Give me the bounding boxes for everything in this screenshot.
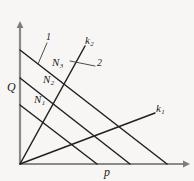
callout-label-2: 2 [97,58,102,68]
y-axis-label: Q [7,81,16,93]
curve-label-n3: N3 [52,57,63,68]
curve-label-n1-base: N [34,93,41,105]
curve-label-k2: k2 [85,35,93,46]
curve-label-n3-subscript: 3 [60,62,63,69]
callout-label-1: 1 [46,32,51,42]
n-lines-group [20,50,167,164]
figure-container: Q p N1 N2 N3 k1 k2 1 2 [0,0,194,181]
curve-label-n1: N1 [34,94,45,105]
curve-label-k1: k1 [156,103,164,114]
k-rays-group [20,46,155,164]
callout-1-leader [38,43,47,64]
curve-label-n2-base: N [43,73,50,85]
y-axis-arrowhead [17,21,24,28]
curve-n1 [20,105,97,164]
curve-n3 [20,50,167,164]
curve-n2 [20,78,130,164]
curve-label-k2-subscript: 2 [90,40,93,47]
curve-label-n2-subscript: 2 [51,79,54,86]
curve-label-n3-base: N [52,56,59,68]
diagram-canvas [0,0,194,181]
curve-label-k1-subscript: 1 [161,108,164,115]
curve-label-n1-subscript: 1 [42,99,45,106]
x-axis-label: p [104,166,110,178]
callout-leaders-group [38,43,95,66]
x-axis-arrowhead [183,160,190,167]
curve-label-n2: N2 [43,74,54,85]
